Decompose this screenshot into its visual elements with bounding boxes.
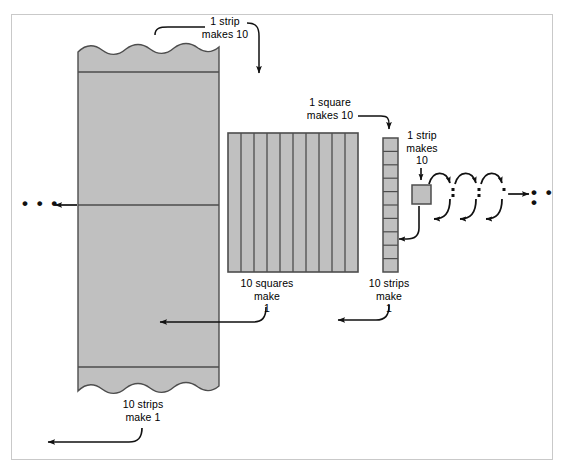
ten-strip-square bbox=[228, 133, 358, 272]
label-one-square-makes-10: 1 square makes 10 bbox=[294, 96, 366, 121]
chain-node-dots bbox=[452, 188, 506, 197]
label-ten-squares-make-1: 10 squares make 1 bbox=[232, 277, 302, 315]
arrow-unit-square-back bbox=[399, 206, 419, 239]
arrow-chain-backward-arcs bbox=[434, 199, 502, 219]
label-one-strip-makes-10-small: 1 strip makes 10 bbox=[398, 129, 446, 167]
label-one-strip-makes-10: 1 strip makes 10 bbox=[185, 15, 265, 40]
diagram-svg bbox=[0, 0, 568, 474]
unit-square bbox=[412, 185, 431, 204]
ellipsis-right: • • • bbox=[531, 188, 568, 208]
arrow-ten-strips-make-1-bottom bbox=[48, 428, 142, 442]
large-flat-block bbox=[78, 44, 219, 394]
label-ten-strips-make-1-bottom: 10 strips make 1 bbox=[110, 398, 176, 423]
arrow-chain-forward-arcs bbox=[429, 173, 502, 184]
ten-square-strip bbox=[383, 138, 398, 272]
label-ten-strips-make-1-right: 10 strips make 1 bbox=[357, 277, 421, 315]
figure-canvas: 1 strip makes 10 1 square makes 10 1 str… bbox=[0, 0, 568, 474]
ellipsis-left: • • • bbox=[22, 199, 59, 209]
